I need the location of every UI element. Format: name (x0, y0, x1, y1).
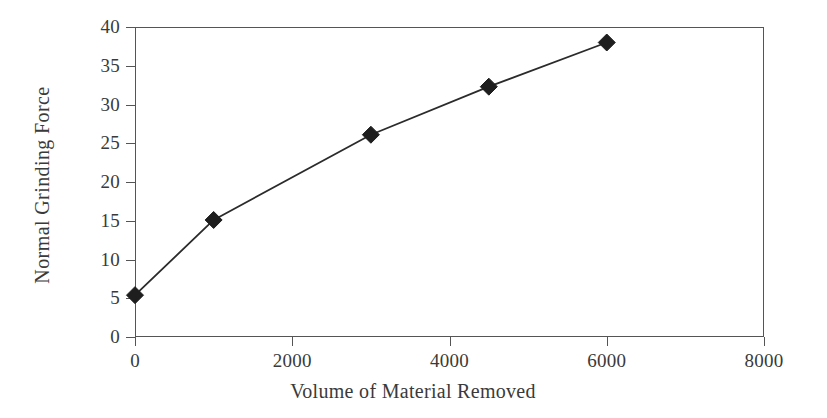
data-point-marker (362, 126, 379, 143)
y-tick-label: 35 (80, 56, 120, 75)
y-tick-mark (126, 260, 135, 261)
y-tick-label: 20 (80, 172, 120, 191)
y-tick-label: 15 (80, 211, 120, 230)
x-tick-mark (764, 337, 765, 346)
x-tick-mark (450, 337, 451, 346)
chart-figure: Normal Grinding Force 0510152025303540 0… (0, 0, 827, 418)
series-markers (127, 34, 616, 304)
x-tick-label: 6000 (547, 351, 667, 370)
y-tick-mark (126, 143, 135, 144)
x-axis-title-text: Volume of Material Removed (290, 379, 536, 403)
y-tick-mark (126, 105, 135, 106)
x-tick-label: 2000 (232, 351, 352, 370)
x-tick-label: 8000 (704, 351, 824, 370)
y-tick-label: 0 (80, 327, 120, 346)
data-point-marker (480, 78, 497, 95)
y-tick-label: 5 (80, 288, 120, 307)
y-tick-label: 25 (80, 133, 120, 152)
y-tick-mark (126, 221, 135, 222)
y-tick-mark (126, 182, 135, 183)
x-tick-label: 0 (75, 351, 195, 370)
x-tick-mark (607, 337, 608, 346)
plot-series-layer (135, 27, 764, 337)
y-tick-mark (126, 337, 135, 338)
x-tick-mark (292, 337, 293, 346)
y-tick-mark (126, 27, 135, 28)
x-axis-title: Volume of Material Removed (0, 379, 827, 403)
x-tick-label: 4000 (390, 351, 510, 370)
y-tick-label: 40 (80, 17, 120, 36)
y-tick-mark (126, 66, 135, 67)
y-tick-label: 10 (80, 250, 120, 269)
series-line (135, 43, 607, 296)
x-tick-mark (135, 337, 136, 346)
data-point-marker (598, 34, 615, 51)
y-tick-label: 30 (80, 95, 120, 114)
y-axis-title-text: Normal Grinding Force (30, 86, 54, 283)
